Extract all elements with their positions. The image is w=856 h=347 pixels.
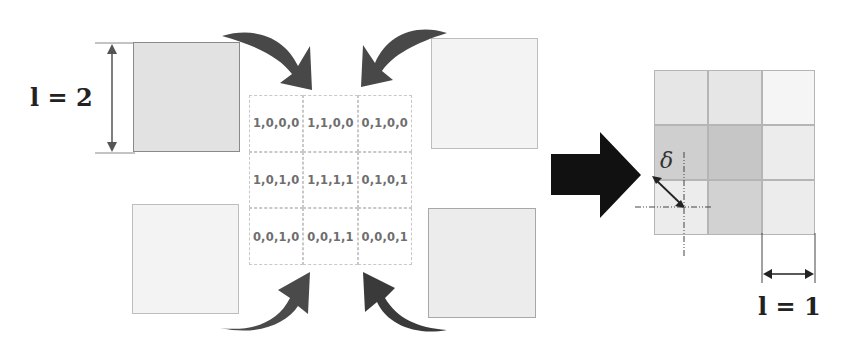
delta-label: δ [660,148,673,173]
grid-cell: 0,1,0,0 [358,95,412,152]
grid-cell: 1,0,0,0 [249,95,303,152]
right-length-label: l = 1 [758,292,821,321]
result-cell [708,70,762,125]
grid-cell: 0,0,1,0 [249,208,303,265]
curved-arrow-bottom-left-icon [218,270,313,335]
overlap-code-grid: 1,0,0,0 1,1,0,0 0,1,0,0 1,0,1,0 1,1,1,1 … [249,95,412,265]
grid-cell: 0,1,0,1 [358,152,412,209]
grid-cell: 1,1,0,0 [303,95,357,152]
offset-crosshair [630,150,720,260]
curved-arrow-top-right-icon [355,25,450,90]
result-cell [654,70,708,125]
big-right-arrow-icon [548,130,643,220]
curved-arrow-top-left-icon [220,28,315,93]
grid-cell: 0,0,1,1 [303,208,357,265]
grid-cell: 0,0,0,1 [358,208,412,265]
dimension-arrow-horizontal [760,233,820,285]
grid-cell: 1,1,1,1 [303,152,357,209]
curved-arrow-bottom-right-icon [355,270,450,335]
left-length-label: l = 2 [30,83,93,112]
result-cell [762,70,815,125]
grid-cell: 1,0,1,0 [249,152,303,209]
result-cell [762,125,815,180]
result-cell [762,180,815,235]
